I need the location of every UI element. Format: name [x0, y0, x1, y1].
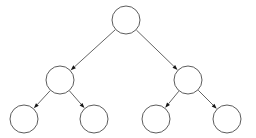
- tree-node[interactable]: [174, 66, 202, 94]
- tree-node[interactable]: [213, 105, 241, 133]
- tree-node[interactable]: [112, 6, 140, 34]
- tree-node-circle[interactable]: [112, 6, 140, 34]
- tree-edge: [198, 90, 216, 108]
- tree-node[interactable]: [80, 105, 108, 133]
- tree-node[interactable]: [142, 105, 170, 133]
- tree-node-circle[interactable]: [174, 66, 202, 94]
- tree-canvas: [0, 0, 256, 138]
- tree-node-circle[interactable]: [10, 105, 38, 133]
- tree-node-circle[interactable]: [142, 105, 170, 133]
- tree-node-circle[interactable]: [80, 105, 108, 133]
- tree-node-circle[interactable]: [213, 105, 241, 133]
- binary-tree-diagram: [0, 0, 256, 138]
- tree-nodes-group: [10, 6, 241, 133]
- tree-node-circle[interactable]: [46, 66, 74, 94]
- tree-node[interactable]: [46, 66, 74, 94]
- tree-edge: [136, 30, 177, 70]
- tree-edge: [71, 30, 116, 70]
- tree-edge: [34, 91, 50, 109]
- tree-edge: [70, 91, 85, 108]
- tree-edge: [165, 91, 179, 108]
- tree-node[interactable]: [10, 105, 38, 133]
